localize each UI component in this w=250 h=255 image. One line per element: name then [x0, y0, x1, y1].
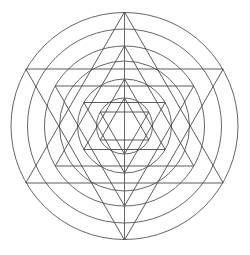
figure-background — [0, 0, 250, 255]
geometry-figure-canvas — [0, 0, 250, 255]
geometry-svg — [0, 0, 250, 255]
